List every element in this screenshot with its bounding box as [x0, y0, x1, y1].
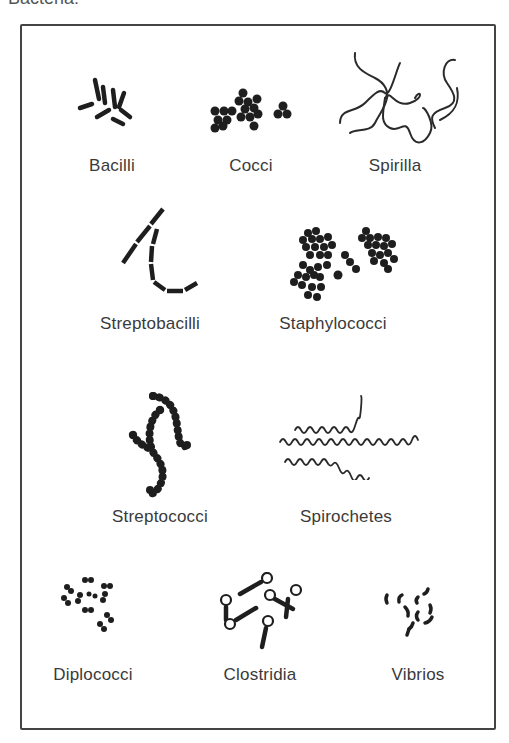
label-staphylococci: Staphylococci	[279, 314, 387, 334]
clostridia-illustration	[218, 572, 313, 652]
label-streptobacilli: Streptobacilli	[100, 314, 200, 334]
label-spirochetes: Spirochetes	[300, 507, 392, 527]
label-cocci: Cocci	[229, 156, 273, 176]
label-diplococci: Diplococci	[53, 665, 132, 685]
page-title: Bacteria:	[8, 0, 79, 9]
label-streptococci: Streptococci	[112, 507, 208, 527]
label-spirilla: Spirilla	[369, 156, 422, 176]
label-clostridia: Clostridia	[224, 665, 297, 685]
spirochetes-illustration	[275, 390, 435, 480]
label-vibrios: Vibrios	[391, 665, 444, 685]
bacilli-illustration	[75, 75, 145, 130]
diplococci-illustration	[60, 575, 130, 645]
streptobacilli-illustration	[115, 205, 205, 305]
label-bacilli: Bacilli	[89, 156, 135, 176]
vibrios-illustration	[380, 585, 450, 645]
streptococci-illustration	[125, 390, 205, 500]
staphylococci-illustration	[288, 225, 403, 305]
cocci-illustration	[208, 82, 298, 137]
spirilla-illustration	[335, 48, 465, 148]
